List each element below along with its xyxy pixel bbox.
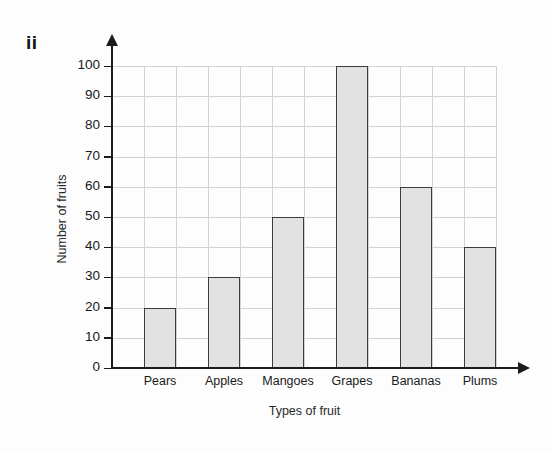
y-axis-tick-mark	[104, 156, 113, 158]
x-axis-title: Types of fruit	[112, 404, 497, 418]
bar-mangoes	[272, 217, 304, 368]
y-axis-tick-label: 70	[36, 148, 100, 163]
bar-grapes	[336, 66, 368, 368]
y-axis-tick-label: 0	[36, 359, 100, 374]
gridline-vertical	[496, 66, 497, 368]
y-axis-arrow-icon	[106, 34, 118, 46]
y-axis-tick-label: 40	[36, 238, 100, 253]
gridline-vertical	[176, 66, 177, 368]
y-axis-tick-label: 100	[36, 57, 100, 72]
y-axis-tick-label: 30	[36, 268, 100, 283]
y-axis-tick-mark	[104, 247, 113, 249]
x-axis-arrow-icon	[518, 362, 530, 374]
y-axis-tick-mark	[104, 66, 113, 68]
bar-pears	[144, 308, 176, 368]
y-axis-tick-label: 90	[36, 87, 100, 102]
x-axis-line	[111, 367, 520, 369]
chart-figure: ii Number of fruits Types of fruit 01020…	[0, 0, 551, 453]
bar-plums	[464, 247, 496, 368]
y-axis-tick-labels: 0102030405060708090100	[30, 0, 100, 453]
gridline-vertical	[240, 66, 241, 368]
y-axis-tick-label: 50	[36, 208, 100, 223]
y-axis-tick-label: 20	[36, 299, 100, 314]
y-axis-line	[111, 44, 113, 369]
gridline-vertical	[368, 66, 369, 368]
gridline-vertical	[304, 66, 305, 368]
bar-bananas	[400, 187, 432, 368]
y-axis-tick-mark	[104, 126, 113, 128]
y-axis-tick-mark	[104, 186, 113, 188]
y-axis-tick-mark	[104, 217, 113, 219]
y-axis-tick-label: 80	[36, 117, 100, 132]
x-axis-category-label: Plums	[435, 374, 525, 388]
y-axis-tick-label: 60	[36, 178, 100, 193]
plot-area	[112, 66, 497, 368]
y-axis-tick-mark	[104, 368, 113, 370]
y-axis-tick-mark	[104, 96, 113, 98]
bar-apples	[208, 277, 240, 368]
y-axis-tick-label: 10	[36, 329, 100, 344]
y-axis-tick-mark	[104, 307, 113, 309]
y-axis-tick-mark	[104, 337, 113, 339]
y-axis-tick-mark	[104, 277, 113, 279]
gridline-vertical	[432, 66, 433, 368]
